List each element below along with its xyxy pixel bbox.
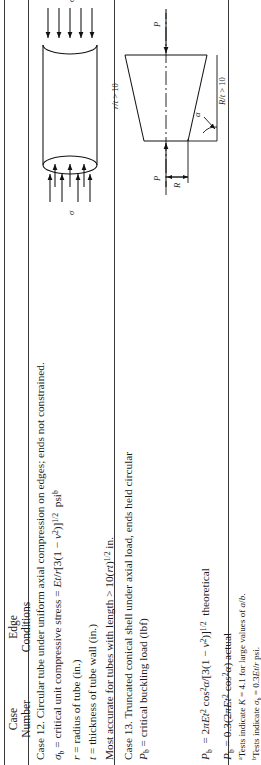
sigma-label-top: σ bbox=[66, 211, 76, 215]
bottom-load-arrows bbox=[48, 8, 92, 38]
column-header-edge-conditions: Edge Conditions bbox=[7, 581, 33, 673]
case-12-symbol-r: r = radius of tube (in.) bbox=[69, 362, 84, 760]
figure-truncated-cone: P P R α R/t > 10 bbox=[122, 5, 222, 205]
case-12-description: Case 12. Circular tube under uniform axi… bbox=[33, 362, 118, 760]
footnote-a: aTests indicate K = 4.1 for large values… bbox=[234, 594, 248, 760]
column-header-case-number: Case Number bbox=[7, 687, 33, 751]
load-label-right: P bbox=[152, 22, 162, 27]
header-case-line2: Number bbox=[20, 687, 33, 751]
table-footnotes: aTests indicate K = 4.1 for large values… bbox=[234, 594, 261, 760]
radius-label: R bbox=[172, 183, 182, 188]
case-12-symbol-t: t = thickness of tube wall (in.) bbox=[85, 362, 100, 760]
page-root: Case Number Edge Conditions Case 12. Cir… bbox=[0, 0, 261, 765]
case-13-title: Case 13. Truncated conical shell under a… bbox=[121, 452, 136, 760]
footnote-b: bTests indicate σb = 0.3Et/r psi. bbox=[248, 594, 261, 760]
header-edge-line2: Conditions bbox=[20, 581, 33, 673]
table-top-rule bbox=[4, 0, 5, 765]
radius-dimension bbox=[166, 139, 188, 183]
alpha-angle bbox=[188, 55, 217, 141]
case-13-equations: Pb = 2πEt2 cos2α/[3(1 − ν2)]1/2 theoreti… bbox=[196, 568, 239, 760]
load-label-left: P bbox=[152, 176, 162, 181]
case-13-equation-theoretical: Pb = 2πEt2 cos2α/[3(1 − ν2)]1/2 theoreti… bbox=[196, 568, 218, 760]
table-sheet: Case Number Edge Conditions Case 12. Cir… bbox=[0, 0, 261, 765]
cone-ratio-label: R/t > 10 bbox=[217, 77, 227, 105]
case-12-note: Most accurate for tubes with length > 10… bbox=[100, 362, 118, 760]
case-13-symbol-pb: Pb = critical buckling load (lbf) bbox=[136, 452, 155, 760]
sigma-label-bottom: σ bbox=[66, 0, 76, 2]
figure-circular-tube: σ σ r/t > 10 bbox=[26, 5, 114, 205]
header-case-line1: Case bbox=[7, 687, 20, 751]
case-13-description: Case 13. Truncated conical shell under a… bbox=[121, 452, 155, 760]
tube-ratio-label: r/t > 10 bbox=[110, 83, 120, 109]
alpha-label: α bbox=[192, 112, 202, 117]
top-rim-arrows bbox=[55, 164, 84, 187]
case-12-title: Case 12. Circular tube under uniform axi… bbox=[33, 362, 48, 760]
truncated-cone-svg bbox=[122, 5, 222, 205]
case-12-formula: σb = critical unit compressive stress = … bbox=[48, 362, 69, 760]
header-edge-line1: Edge bbox=[7, 581, 20, 673]
circular-tube-svg bbox=[26, 5, 114, 205]
rotated-table-canvas: Case Number Edge Conditions Case 12. Cir… bbox=[0, 0, 261, 765]
